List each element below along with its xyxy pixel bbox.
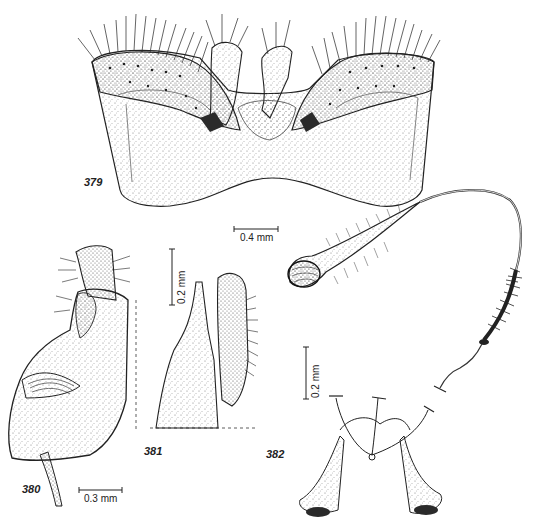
furca-left-arm (300, 436, 344, 513)
figure-label-382: 382 (266, 448, 284, 460)
furca-right-arm (400, 436, 442, 513)
spermathecal-duct-inner (420, 190, 521, 270)
furca (329, 396, 434, 460)
scale-bar-382 (303, 347, 309, 399)
scale-label-382: 0.2 mm (310, 365, 321, 398)
scale-label-381: 0.2 mm (176, 271, 187, 304)
figure-379 (78, 14, 440, 232)
figure-label-380: 380 (22, 483, 40, 495)
bulb-head (288, 261, 320, 287)
distal-duct (440, 344, 482, 388)
paramere-381 (217, 274, 248, 406)
duct-spines (488, 268, 522, 330)
scale-label-380: 0.3 mm (84, 493, 117, 504)
figure-382 (288, 190, 522, 517)
figure-380 (9, 246, 136, 506)
furca-right-tip (414, 505, 438, 515)
duct-ring (479, 339, 489, 345)
figure-label-381: 381 (144, 445, 162, 457)
furca-left-tip (306, 507, 330, 517)
figure-label-379: 379 (84, 176, 102, 188)
spermathecal-duct (420, 190, 521, 270)
figure-381 (150, 249, 258, 428)
scale-bar-381 (169, 249, 175, 305)
gonocoxite (9, 289, 128, 460)
aedeagus-shaft (156, 282, 218, 428)
scale-label-379: 0.4 mm (240, 232, 273, 243)
